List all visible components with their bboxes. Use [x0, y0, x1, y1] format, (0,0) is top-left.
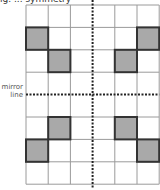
shaded-cell: [26, 139, 48, 161]
shaded-cell: [48, 50, 70, 72]
shaded-cell: [26, 27, 48, 49]
shaded-cell: [115, 117, 137, 139]
shaded-cell: [48, 117, 70, 139]
grid: [0, 0, 160, 190]
symmetry-diagram: ig. ... symmetry mirror line: [0, 0, 160, 190]
shaded-cell: [137, 27, 159, 49]
shaded-cell: [115, 50, 137, 72]
shaded-cell: [137, 139, 159, 161]
